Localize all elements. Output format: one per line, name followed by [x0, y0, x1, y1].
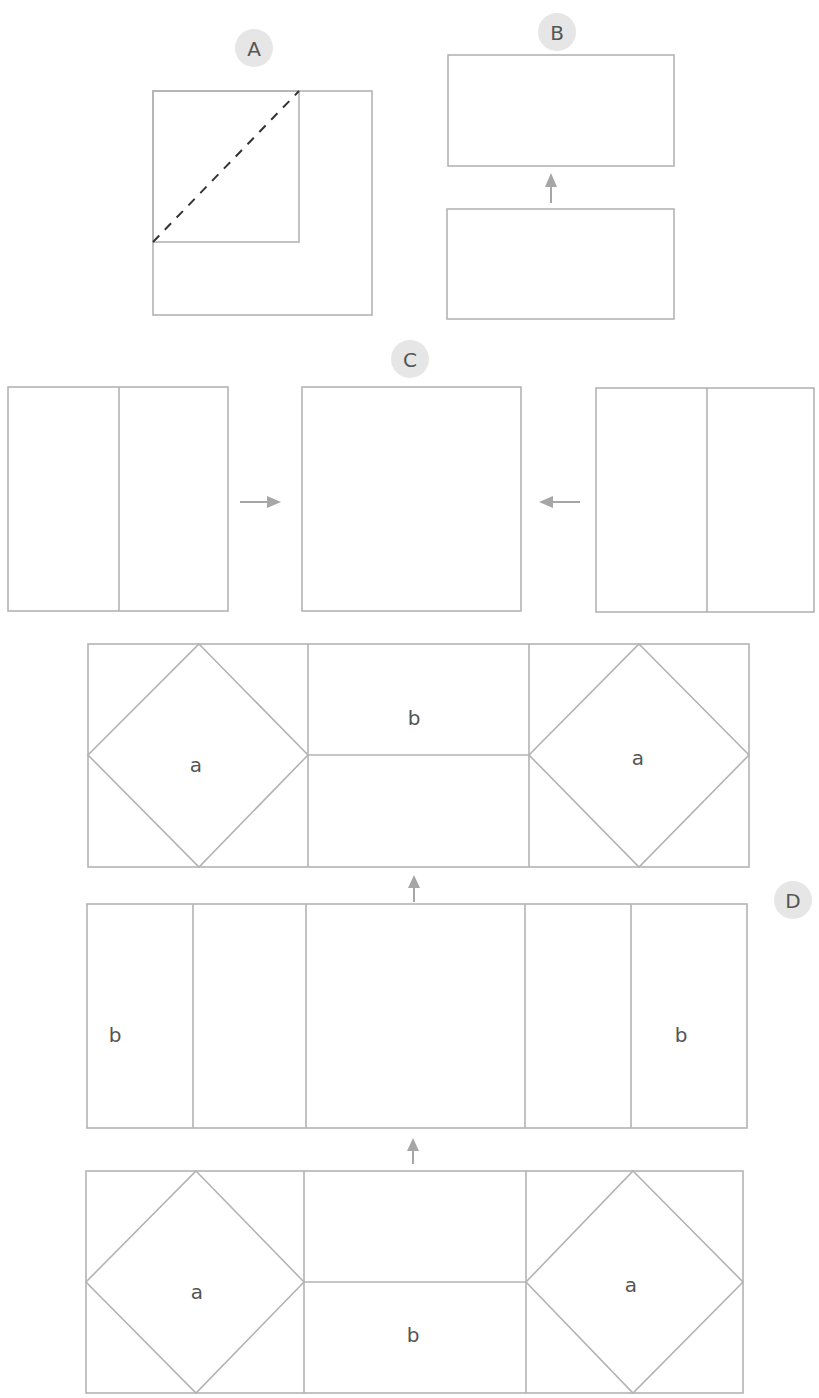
center-square	[302, 387, 521, 611]
outer-square	[153, 91, 372, 315]
arrow-up-icon	[407, 1138, 419, 1164]
right-split-block	[596, 388, 814, 612]
top-rectangle	[448, 55, 674, 166]
arrow-up-icon	[545, 173, 557, 203]
quilt-assembly-diagram: A B C	[0, 0, 819, 1398]
d-middle-row: b b	[87, 904, 747, 1128]
step-c-badge: C	[391, 340, 429, 378]
step-a-badge: A	[235, 29, 273, 67]
step-b: B	[447, 13, 674, 319]
piece-label-b: b	[109, 1023, 122, 1047]
arrow-right-icon	[240, 496, 281, 508]
d-bottom-row: a b a	[86, 1171, 743, 1393]
step-d: D a b a b b	[86, 644, 812, 1393]
piece-label-a: a	[190, 753, 202, 777]
piece-label-b: b	[407, 1323, 420, 1347]
left-split-block	[8, 387, 228, 611]
bottom-rectangle	[447, 209, 674, 319]
d-top-row: a b a	[88, 644, 749, 867]
step-d-label: D	[785, 889, 800, 913]
step-a: A	[153, 29, 372, 315]
arrow-left-icon	[539, 496, 580, 508]
step-b-label: B	[550, 21, 564, 45]
arrow-up-icon	[408, 875, 420, 902]
diagonal-fold-line	[153, 91, 299, 242]
piece-label-a: a	[191, 1280, 203, 1304]
piece-label-b: b	[408, 706, 421, 730]
step-b-badge: B	[538, 13, 576, 51]
step-c: C	[8, 340, 814, 612]
step-d-badge: D	[774, 881, 812, 919]
piece-label-a: a	[632, 746, 644, 770]
step-c-label: C	[403, 348, 417, 372]
piece-label-b: b	[675, 1023, 688, 1047]
piece-label-a: a	[625, 1273, 637, 1297]
step-a-label: A	[247, 37, 261, 61]
